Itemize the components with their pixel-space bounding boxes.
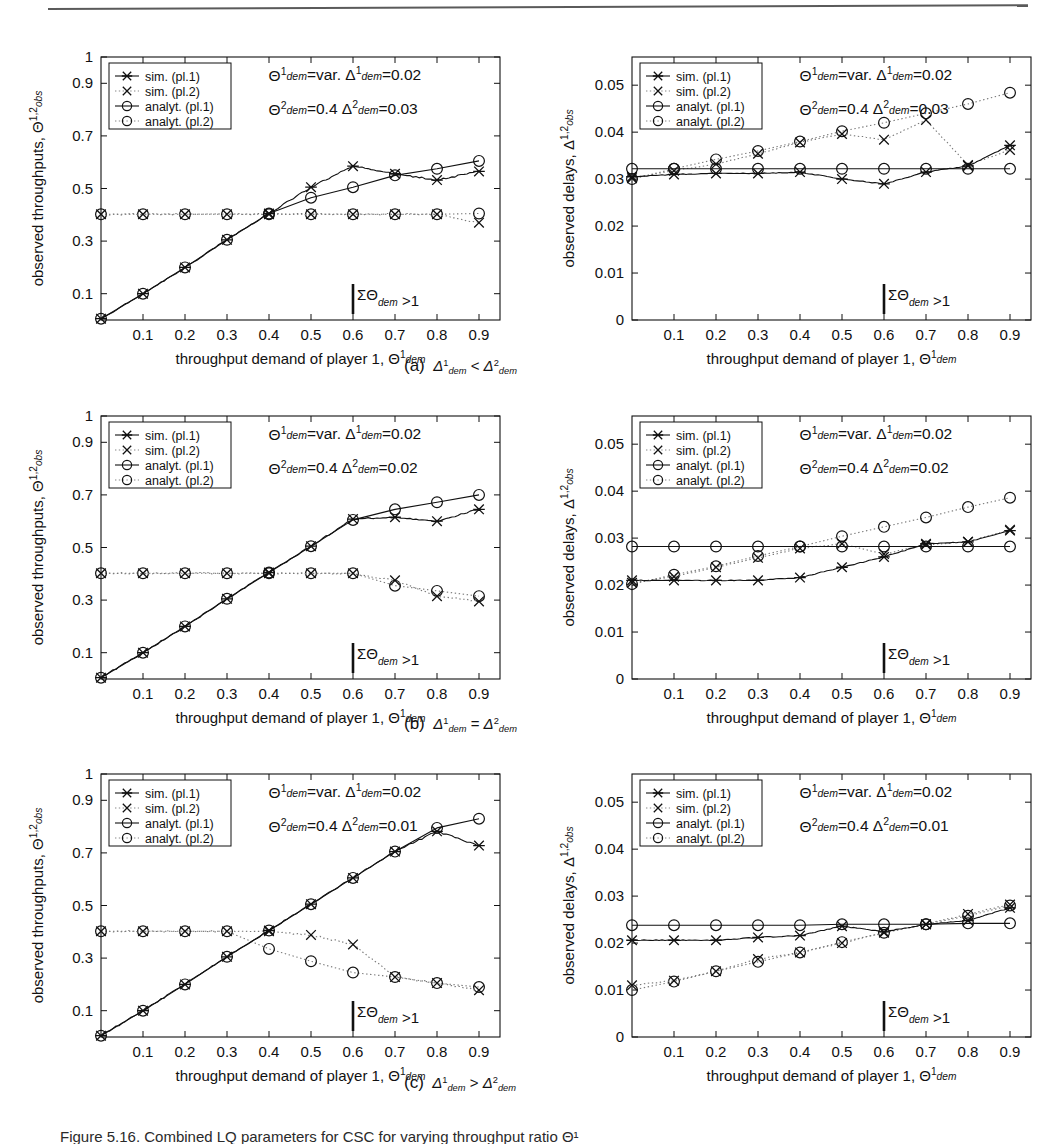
legend-label-ana1: analyt. (pl.1) — [145, 459, 214, 473]
marker-circle — [390, 580, 401, 591]
marker-circle — [306, 956, 317, 967]
marker-circle — [1005, 492, 1016, 503]
annotation-line: Θ1dem=var. Δ1dem=0.02 — [269, 781, 422, 801]
x-tick-label: 0.7 — [916, 326, 937, 343]
x-tick-label: 0.1 — [664, 1043, 685, 1060]
y-tick-label: 0.3 — [72, 949, 93, 966]
marker-star — [389, 847, 401, 857]
marker-star — [263, 926, 275, 936]
x-tick-label: 0.9 — [469, 326, 490, 343]
legend-label-ana1: analyt. (pl.1) — [145, 817, 214, 831]
x-axis-label: throughput demand of player 1, Θ1dem — [707, 349, 957, 367]
y-tick-label: 0.04 — [595, 123, 624, 140]
series-markers-sim-pl-2- — [96, 568, 484, 606]
series-markers-sim-pl-2- — [627, 900, 1015, 990]
series-markers-sim-pl-2- — [96, 209, 484, 227]
y-tick-label: 0.3 — [72, 232, 93, 249]
legend-label-ana1: analyt. (pl.1) — [676, 817, 745, 831]
annotation-line: Θ1dem=var. Δ1dem=0.02 — [800, 423, 953, 443]
threshold-label: ΣΘdem >1 — [888, 1003, 950, 1026]
x-tick-label: 0.8 — [427, 1043, 448, 1060]
y-tick-label: 0.02 — [595, 217, 624, 234]
legend-label-sim2: sim. (pl.2) — [145, 444, 200, 458]
legend-label-ana1: analyt. (pl.1) — [145, 100, 214, 114]
y-tick-label: 0.02 — [595, 934, 624, 951]
marker-star — [137, 1006, 149, 1016]
panel-c-left: 0.10.20.30.40.50.60.70.80.90.10.30.50.70… — [28, 765, 500, 1084]
panel-caption-b: (b) Δ1dem = Δ2dem — [404, 714, 517, 734]
x-tick-label: 0.3 — [217, 1043, 238, 1060]
x-tick-label: 0.6 — [343, 1043, 364, 1060]
x-tick-label: 0.3 — [748, 326, 769, 343]
marker-star — [305, 182, 317, 192]
annotation-line: Θ2dem=0.4 Δ2dem=0.03 — [800, 98, 949, 118]
y-tick-label: 0 — [616, 311, 624, 328]
x-tick-label: 0.2 — [706, 1043, 727, 1060]
series-line-analyt-pl-2- — [101, 931, 479, 987]
series-line-analyt-pl-2- — [101, 573, 479, 596]
marker-cross — [432, 591, 442, 601]
marker-circle — [879, 521, 890, 532]
x-tick-label: 0.2 — [175, 326, 196, 343]
series-markers-analyt-pl-2- — [627, 492, 1016, 589]
y-axis-label: observed delays, Δ1,2obs — [559, 468, 577, 626]
panel-caption-c: (c) Δ1dem > Δ2dem — [404, 1073, 516, 1093]
y-tick-label: 0.04 — [595, 840, 624, 857]
series-markers-sim-pl-2- — [96, 926, 484, 995]
series-line-analyt-pl-1- — [101, 819, 479, 1036]
y-tick-label: 0.1 — [72, 1002, 93, 1019]
x-tick-label: 0.6 — [343, 685, 364, 702]
marker-star — [878, 927, 890, 937]
legend-label-ana1: analyt. (pl.1) — [676, 100, 745, 114]
x-tick-label: 0.8 — [958, 1043, 979, 1060]
annotation-line: Θ2dem=0.4 Δ2dem=0.02 — [269, 457, 418, 477]
marker-circle — [921, 512, 932, 523]
series-line-sim-pl-2- — [632, 904, 1010, 985]
threshold-label: ΣΘdem >1 — [357, 645, 419, 668]
threshold-label: ΣΘdem >1 — [357, 286, 419, 309]
x-tick-label: 0.6 — [874, 685, 895, 702]
x-tick-label: 0.7 — [385, 326, 406, 343]
marker-star — [137, 289, 149, 299]
legend-label-ana2: analyt. (pl.2) — [145, 474, 214, 488]
marker-star — [221, 594, 233, 604]
x-tick-label: 0.8 — [427, 326, 448, 343]
x-tick-label: 0.3 — [748, 1043, 769, 1060]
marker-cross — [711, 562, 721, 572]
x-tick-label: 0.3 — [217, 685, 238, 702]
y-tick-label: 0.02 — [595, 576, 624, 593]
marker-cross — [348, 940, 358, 950]
series-line-analyt-pl-2- — [632, 906, 1010, 991]
y-tick-label: 0.7 — [72, 127, 93, 144]
x-axis-label: throughput demand of player 1, Θ1dem — [707, 1066, 957, 1084]
series-markers-sim-pl-1- — [95, 827, 485, 1041]
y-tick-label: 0.5 — [72, 897, 93, 914]
y-tick-label: 0.7 — [72, 486, 93, 503]
y-tick-label: 0.7 — [72, 844, 93, 861]
marker-star — [1004, 526, 1016, 536]
annotation-line: Θ1dem=var. Δ1dem=0.02 — [800, 781, 953, 801]
x-tick-label: 0.3 — [217, 326, 238, 343]
marker-circle — [474, 813, 485, 824]
x-tick-label: 0.4 — [790, 1043, 811, 1060]
legend-label-sim2: sim. (pl.2) — [676, 444, 731, 458]
panel-a-right: 0.10.20.30.40.50.60.70.80.90.010.020.030… — [559, 57, 1031, 367]
y-tick-label: 0.9 — [72, 791, 93, 808]
series-markers-analyt-pl-1- — [96, 490, 485, 684]
marker-circle — [348, 967, 359, 978]
figure-svg: 0.10.20.30.40.50.60.70.80.90.10.30.50.70… — [0, 0, 1059, 1144]
y-tick-label: 0.03 — [595, 529, 624, 546]
panel-b-right: 0.10.20.30.40.50.60.70.80.90.010.020.030… — [559, 416, 1031, 726]
panel-a-left: 0.10.20.30.40.50.60.70.80.90.10.30.50.70… — [28, 48, 500, 367]
series-markers-sim-pl-1- — [626, 526, 1016, 585]
legend-label-ana2: analyt. (pl.2) — [676, 474, 745, 488]
y-tick-label: 0.5 — [72, 180, 93, 197]
y-tick-label: 0 — [616, 670, 624, 687]
marker-star — [836, 174, 848, 184]
annotation-line: Θ1dem=var. Δ1dem=0.02 — [269, 423, 422, 443]
annotation-line: Θ1dem=var. Δ1dem=0.02 — [800, 64, 953, 84]
legend-label-sim1: sim. (pl.1) — [676, 429, 731, 443]
y-tick-label: 0.1 — [72, 644, 93, 661]
y-axis-label: observed delays, Δ1,2obs — [559, 826, 577, 984]
series-line-analyt-pl-2- — [632, 498, 1010, 584]
